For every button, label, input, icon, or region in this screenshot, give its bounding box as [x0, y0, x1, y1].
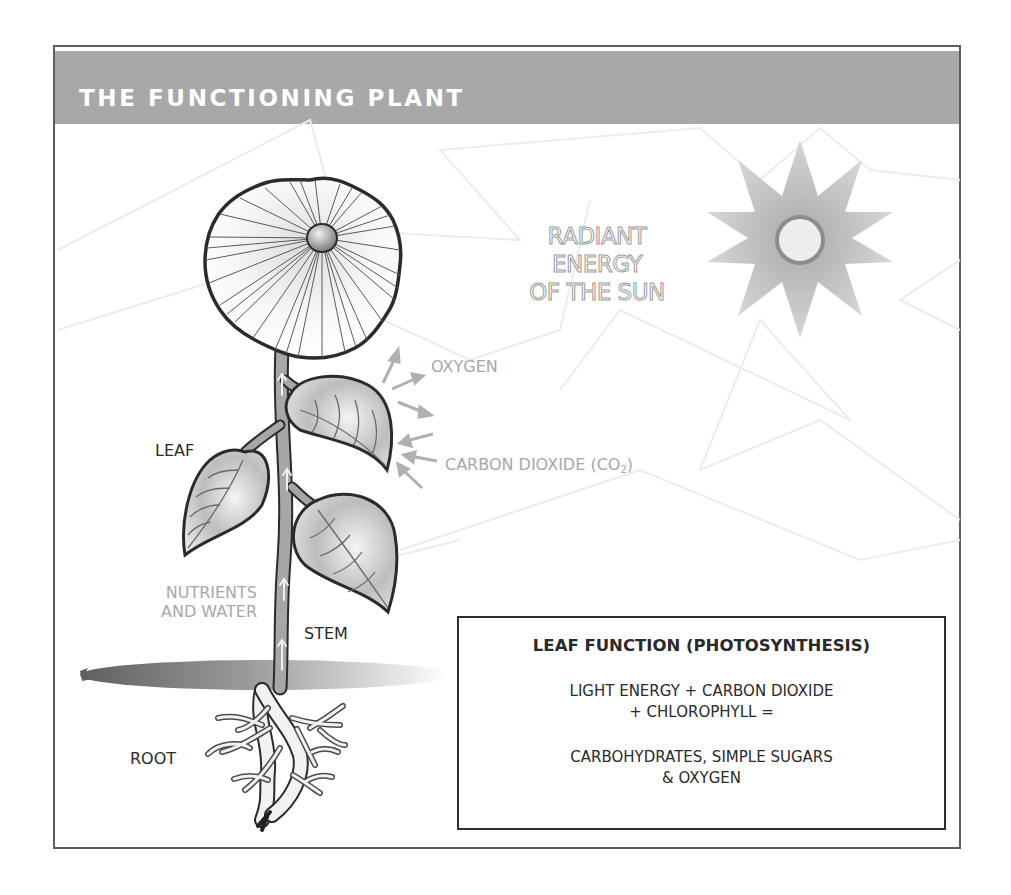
sun-label-line-3: OF THE SUN — [497, 278, 697, 306]
leaf-left — [184, 450, 269, 555]
sun-label: RADIANT ENERGY OF THE SUN — [497, 222, 697, 306]
carbon-dioxide-text: CARBON DIOXIDE (CO — [445, 455, 620, 474]
result-line-2: & OXYGEN — [459, 768, 944, 789]
carbon-dioxide-label: CARBON DIOXIDE (CO2) — [445, 455, 633, 475]
root-system — [208, 690, 345, 830]
leaf-function-box: LEAF FUNCTION (PHOTOSYNTHESIS) LIGHT ENE… — [457, 616, 946, 830]
leaf-function-title: LEAF FUNCTION (PHOTOSYNTHESIS) — [459, 636, 944, 655]
leaf-lower — [293, 494, 397, 612]
carbon-dioxide-close: ) — [627, 455, 633, 474]
nutrients-label-line-1: NUTRIENTS — [125, 583, 257, 602]
equation-line-1: LIGHT ENERGY + CARBON DIOXIDE — [459, 681, 944, 702]
stem-label: STEM — [304, 624, 348, 643]
equation-line-2: + CHLOROPHYLL = — [459, 702, 944, 723]
sun-label-line-2: ENERGY — [497, 250, 697, 278]
result-line-1: CARBOHYDRATES, SIMPLE SUGARS — [459, 747, 944, 768]
flower-head — [205, 178, 401, 358]
sun-icon — [707, 140, 893, 338]
leaf-label: LEAF — [155, 441, 194, 460]
oxygen-label: OXYGEN — [431, 357, 498, 376]
nutrients-water-label: NUTRIENTS AND WATER — [125, 583, 257, 621]
nutrients-label-line-2: AND WATER — [125, 602, 257, 621]
root-label: ROOT — [130, 749, 176, 768]
sun-label-line-1: RADIANT — [497, 222, 697, 250]
flower-center — [307, 224, 337, 252]
